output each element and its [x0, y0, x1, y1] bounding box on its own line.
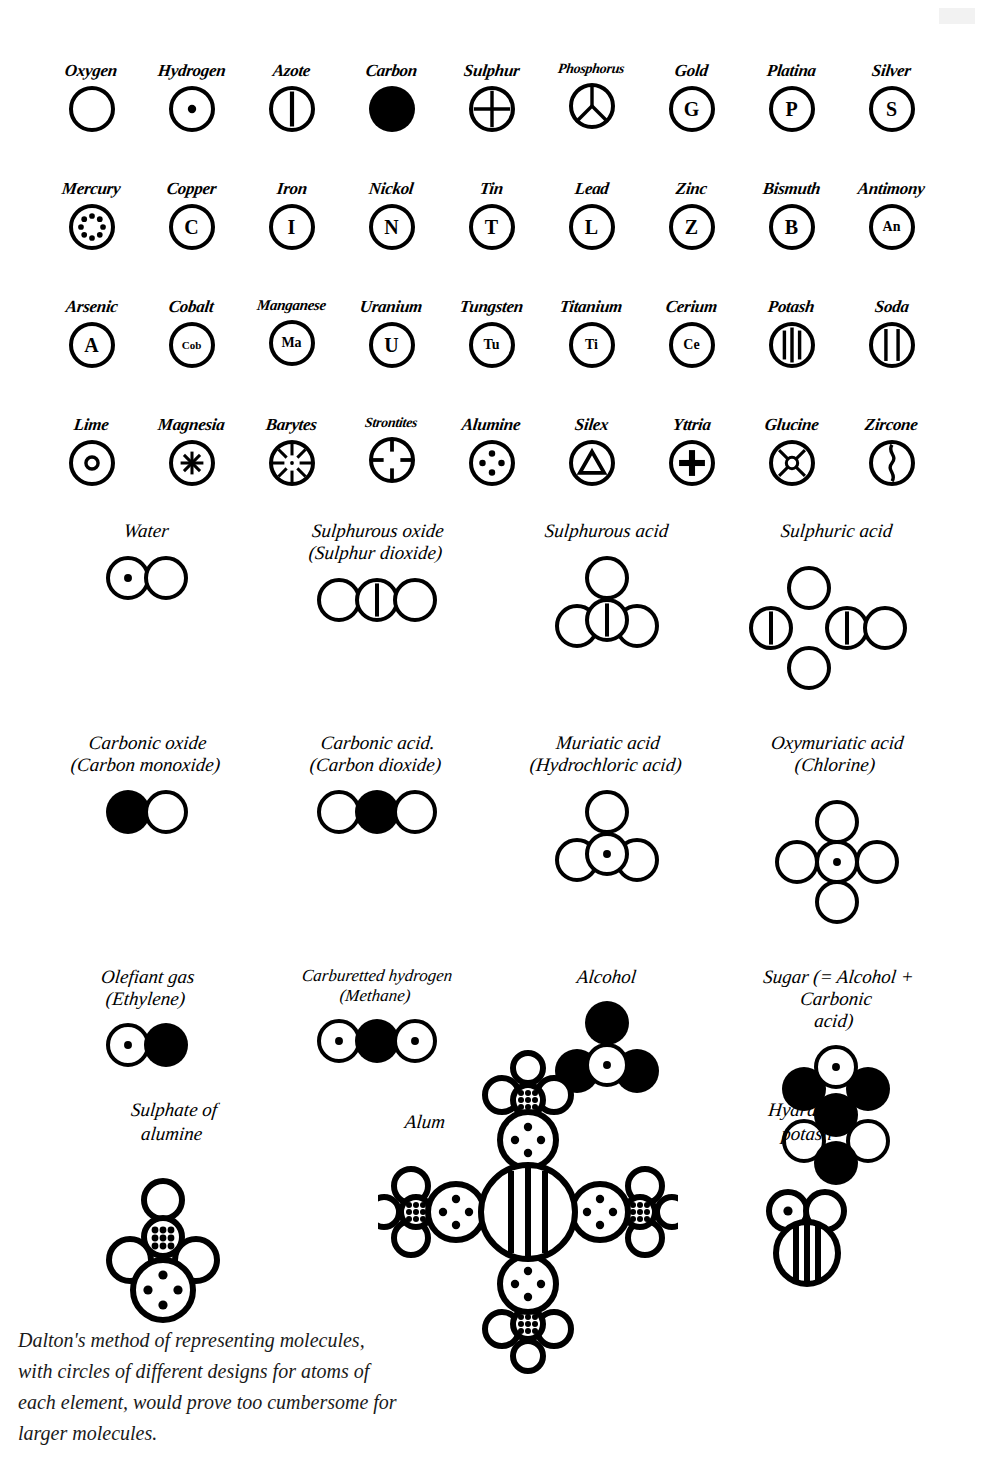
atom-letter-label: Ma	[273, 324, 311, 362]
compound-name-line: Carburetted hydrogen	[301, 966, 453, 986]
caption-line: each element, would prove too cumbersome…	[18, 1387, 448, 1418]
label-line: alumine	[140, 1123, 203, 1144]
molecule-linear	[109, 556, 185, 600]
element-name-label: Tin	[479, 180, 504, 197]
element-name-label: Titanium	[559, 298, 623, 315]
element-name-label: Glucine	[764, 416, 820, 433]
compound-name-line: acid)	[758, 1009, 911, 1031]
atom-symbol-asterisk	[169, 440, 215, 486]
element-cell-cerium: CeriumCe	[642, 298, 742, 368]
atom-letter-label: N	[373, 208, 411, 246]
caption-line: with circles of different designs for at…	[18, 1356, 448, 1387]
compound-cell: Muriatic acid(Hydrochloric acid)	[492, 732, 722, 900]
atom-letter-label: Z	[673, 208, 711, 246]
element-name-label: Bismuth	[762, 180, 822, 197]
atom-symbol-ring-of-dots	[69, 204, 115, 250]
compound-name-line: Carbonic	[760, 987, 913, 1009]
compound-name-line: (Sulphur dioxide)	[307, 542, 443, 564]
molecule-sulphuric	[744, 556, 929, 706]
element-cell-lime: Lime	[42, 416, 142, 486]
compound-cell: Sulphuric acid	[722, 520, 952, 706]
compound-figure	[762, 790, 912, 940]
element-cell-manganese: ManganeseMa	[242, 298, 342, 368]
atom-symbol-filled-circle	[106, 790, 150, 834]
atom-symbol-empty-circle	[787, 566, 831, 610]
atom-symbol-filled-circle	[814, 1093, 858, 1137]
atom-symbol-letter: U	[369, 322, 415, 368]
atom-symbol-letter: I	[269, 204, 315, 250]
atom-symbol-letter: G	[669, 86, 715, 132]
element-name-label: Antimony	[857, 180, 926, 197]
atom-symbol-center-dot	[814, 1045, 858, 1089]
compound-cell: Water	[32, 520, 262, 600]
atom-symbol-filled-circle	[355, 790, 399, 834]
element-cell-copper: CopperC	[142, 180, 242, 250]
compound-name-line: (Carbon monoxide)	[70, 754, 222, 776]
caption-line: Dalton's method of representing molecule…	[18, 1325, 448, 1356]
element-name-label: Iron	[275, 180, 307, 197]
compound-name-label: Water	[123, 520, 170, 542]
caption-line: larger molecules.	[18, 1418, 448, 1449]
atom-letter-label: G	[673, 90, 711, 128]
atom-symbol-letter: P	[769, 86, 815, 132]
atom-symbol-center-dot	[169, 86, 215, 132]
atom-symbol-filled-circle	[369, 86, 415, 132]
element-cell-iron: IronI	[242, 180, 342, 250]
element-name-label: Oxygen	[64, 62, 118, 79]
compound-figure	[744, 556, 929, 706]
atom-symbol-vertical-bar	[585, 598, 629, 642]
atom-symbol-four-inward-ticks	[369, 437, 415, 483]
element-cell-sulphur: Sulphur	[442, 62, 542, 132]
element-name-label: Silex	[574, 416, 610, 433]
atom-symbol-vertical-bar	[269, 86, 315, 132]
molecule-cross	[762, 790, 912, 940]
element-cell-platina: PlatinaP	[742, 62, 842, 132]
atom-symbol-empty-circle	[815, 800, 859, 844]
compound-cell: Carbonic oxide(Carbon monoxide)	[32, 732, 262, 834]
compound-name-line: Carbonic oxide	[72, 732, 224, 754]
element-cell-potash: Potash	[742, 298, 842, 368]
element-name-label: Copper	[166, 180, 217, 197]
compound-name-line: (Methane)	[299, 985, 451, 1005]
atom-symbol-wavy-divider	[869, 440, 915, 486]
atom-letter-label: L	[573, 208, 611, 246]
element-name-label: Soda	[874, 298, 910, 315]
compound-cell: Sulphurous acid	[492, 520, 722, 666]
atom-symbol-letter: Z	[669, 204, 715, 250]
molecule-linear	[320, 578, 434, 622]
atom-symbol-letter: B	[769, 204, 815, 250]
molecule-triangle	[532, 790, 682, 900]
element-cell-lead: LeadL	[542, 180, 642, 250]
element-cell-carbon: Carbon	[342, 62, 442, 132]
element-cell-zinc: ZincZ	[642, 180, 742, 250]
atom-symbol-center-dot	[815, 840, 859, 884]
compound-name-label: Sulphuric acid	[780, 520, 894, 542]
compound-figure	[532, 556, 682, 666]
compound-name-label: Carbonic oxide(Carbon monoxide)	[70, 732, 224, 776]
atom-symbol-filled-circle	[144, 1023, 188, 1067]
element-name-label: Mercury	[61, 180, 121, 197]
element-name-label: Arsenic	[65, 298, 119, 315]
element-name-label: Cerium	[665, 298, 718, 315]
elements-area: OxygenHydrogenAzoteCarbonSulphurPhosphor…	[0, 62, 983, 534]
atom-symbol-empty-circle	[863, 606, 907, 650]
compound-name-line: Alcohol	[576, 966, 637, 988]
element-name-label: Manganese	[256, 298, 327, 313]
atom-symbol-two-bars	[869, 322, 915, 368]
element-name-label: Tungsten	[459, 298, 524, 315]
compound-name-line: Water	[123, 520, 170, 542]
atom-symbol-letter: L	[569, 204, 615, 250]
atom-symbol-radial-spokes	[269, 440, 315, 486]
element-name-label: Uranium	[359, 298, 423, 315]
atom-symbol-letter: A	[69, 322, 115, 368]
element-name-label: Phosphorus	[557, 62, 625, 76]
compound-row: WaterSulphurous oxide(Sulphur dioxide)Su…	[32, 520, 952, 706]
atom-symbol-empty-circle	[317, 790, 361, 834]
compound-name-label: Carbonic acid.(Carbon dioxide)	[309, 732, 445, 776]
compound-name-label: Carburetted hydrogen(Methane)	[299, 966, 453, 1005]
atom-symbol-diagonal-diamond	[769, 440, 815, 486]
element-name-label: Yttria	[672, 416, 712, 433]
element-row: ArsenicACobaltCobManganeseMaUraniumUTung…	[42, 298, 942, 368]
page-corner-mark	[939, 8, 975, 24]
element-row: LimeMagnesiaBarytesStrontitesAlumineSile…	[42, 416, 942, 486]
